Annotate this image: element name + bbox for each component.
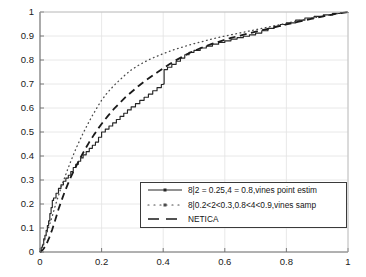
- legend-entry-vines-samp[interactable]: 8|0.2<2<0.3,0.8<4<0.9,vines samp: [141, 198, 346, 213]
- legend-line-sample-dotted: [145, 198, 185, 212]
- legend-line-sample-dashed: [145, 212, 185, 226]
- y-tick-label: 0.5: [2, 126, 34, 137]
- y-tick-label: 0.8: [2, 54, 34, 65]
- y-tick-label: 0.6: [2, 102, 34, 113]
- x-tick-label: 0.6: [210, 256, 240, 267]
- chart-legend[interactable]: 8|2 = 0.25,4 = 0.8,vines point estim 8|0…: [140, 182, 347, 228]
- legend-label-netica: NETICA: [188, 214, 218, 224]
- y-tick-label: 1: [2, 6, 34, 17]
- y-tick-label: 0.4: [2, 150, 34, 161]
- x-tick-label: 0.2: [87, 256, 117, 267]
- y-tick-label: 0.9: [2, 30, 34, 41]
- y-tick-label: 0.3: [2, 174, 34, 185]
- y-tick-label: 0.7: [2, 78, 34, 89]
- figure-canvas: 00.10.20.30.40.50.60.70.80.91 00.20.40.6…: [0, 0, 366, 277]
- x-tick-label: 1: [333, 256, 363, 267]
- legend-label-vines-point-estim: 8|2 = 0.25,4 = 0.8,vines point estim: [188, 185, 317, 195]
- x-tick-label: 0: [25, 256, 55, 267]
- legend-entry-netica[interactable]: NETICA: [141, 212, 346, 227]
- y-tick-label: 0.2: [2, 198, 34, 209]
- y-tick-label: 0.1: [2, 222, 34, 233]
- x-tick-label: 0.4: [148, 256, 178, 267]
- legend-label-vines-samp: 8|0.2<2<0.3,0.8<4<0.9,vines samp: [188, 200, 316, 210]
- x-tick-label: 0.8: [271, 256, 301, 267]
- chart-plot-area: [0, 0, 366, 277]
- legend-entry-vines-point-estim[interactable]: 8|2 = 0.25,4 = 0.8,vines point estim: [141, 183, 346, 198]
- legend-line-sample-solid: [145, 183, 185, 197]
